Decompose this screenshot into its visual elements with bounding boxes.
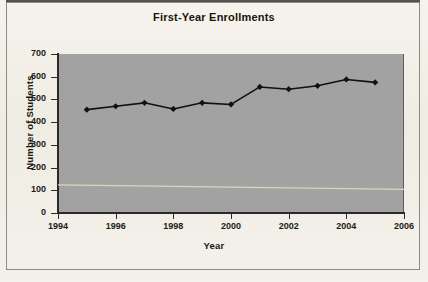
y-tick-mark	[51, 77, 57, 78]
y-tick-mark	[51, 145, 57, 146]
y-tick-mark	[51, 99, 57, 100]
x-tick-label: 1996	[96, 221, 136, 231]
y-tick-mark	[51, 190, 57, 191]
x-tick-mark	[231, 214, 232, 219]
x-tick-mark	[289, 214, 290, 219]
x-tick-mark	[58, 214, 59, 219]
y-axis-line	[57, 53, 59, 214]
x-axis-label: Year	[0, 240, 428, 251]
chart-title: First-Year Enrollments	[0, 11, 428, 23]
x-tick-label: 1998	[153, 221, 193, 231]
x-tick-label: 2002	[269, 221, 309, 231]
x-tick-label: 2006	[384, 221, 424, 231]
line-chart: First-Year Enrollments 70060050040030020…	[0, 0, 428, 282]
y-tick-mark	[51, 213, 57, 214]
plot-area	[58, 54, 404, 213]
x-tick-mark	[346, 214, 347, 219]
y-tick-mark	[51, 168, 57, 169]
y-tick-label: 0	[2, 207, 46, 217]
screenshot-root: First-Year Enrollments 70060050040030020…	[0, 0, 428, 282]
y-axis-label: Number of Students	[24, 48, 35, 198]
y-tick-mark	[51, 122, 57, 123]
x-tick-mark	[404, 214, 405, 219]
x-tick-label: 2000	[211, 221, 251, 231]
x-tick-mark	[116, 214, 117, 219]
x-tick-label: 1994	[38, 221, 78, 231]
x-tick-mark	[173, 214, 174, 219]
y-tick-mark	[51, 54, 57, 55]
x-tick-label: 2004	[326, 221, 366, 231]
